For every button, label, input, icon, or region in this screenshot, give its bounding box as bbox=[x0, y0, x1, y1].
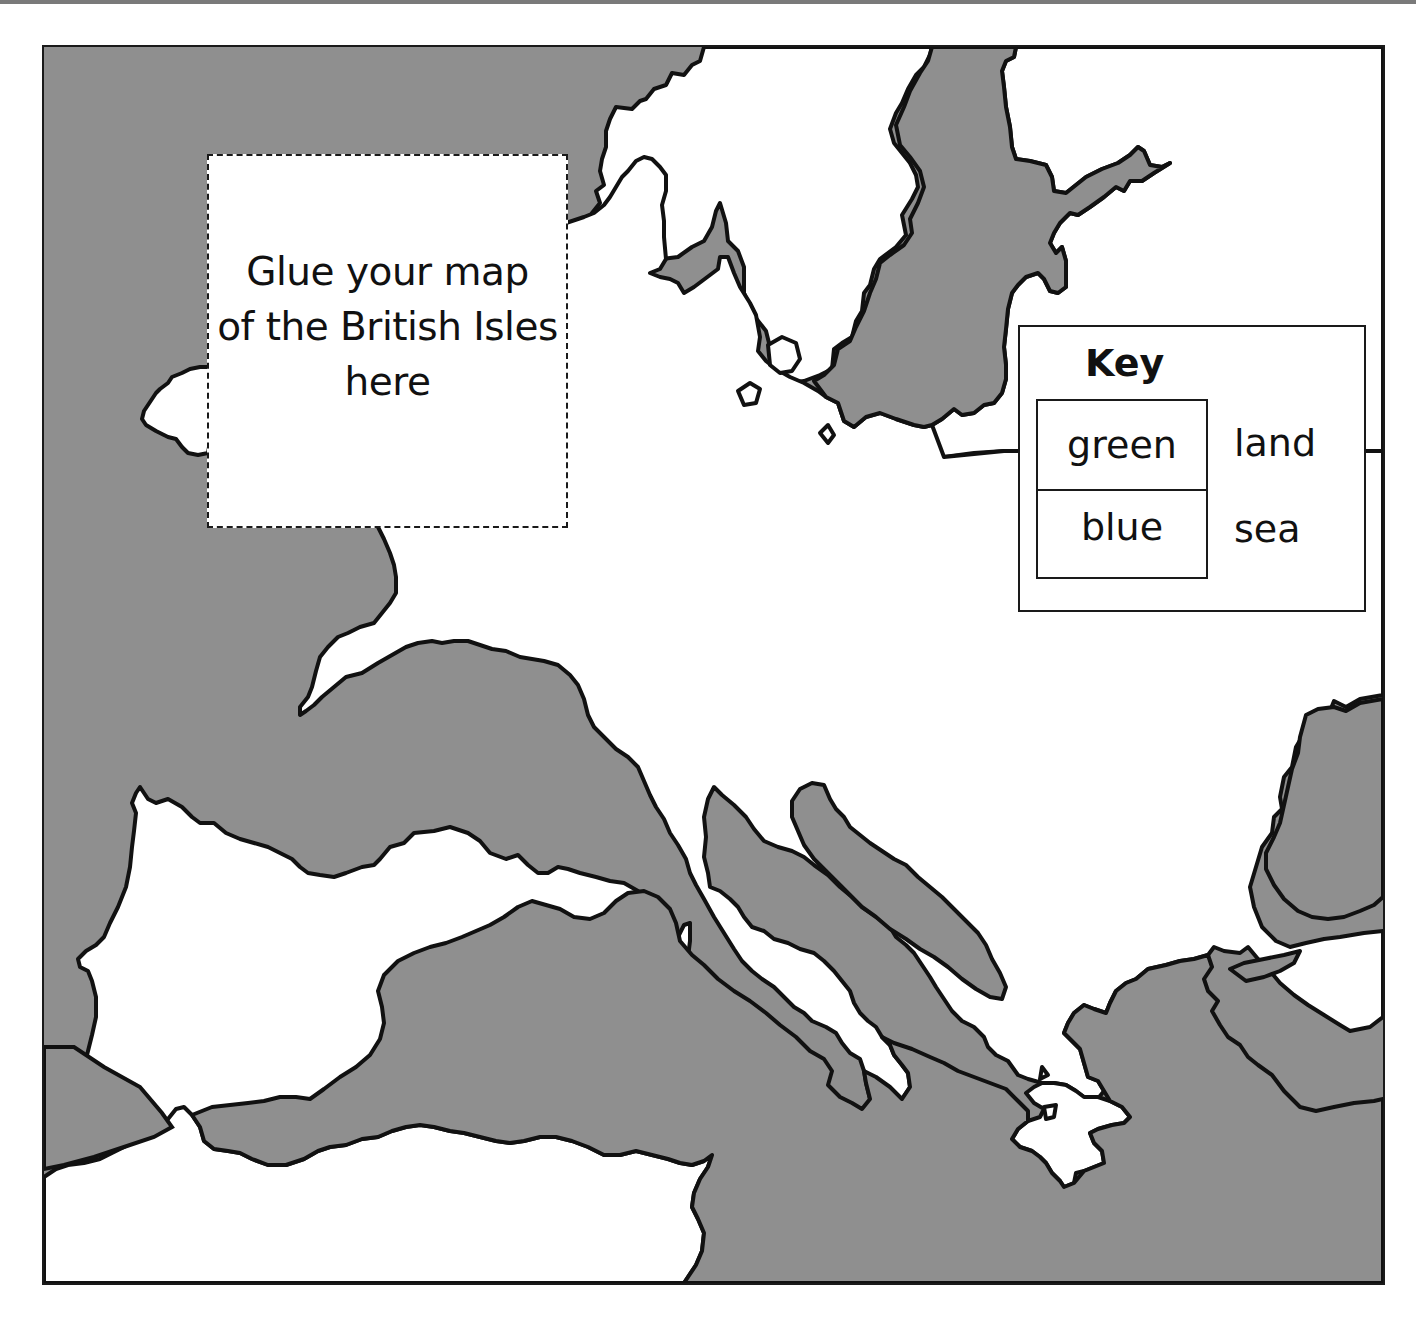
key-title: Key bbox=[1085, 341, 1164, 385]
map-frame: Glue your map of the British Isles here … bbox=[42, 45, 1385, 1285]
glue-instruction-line-3: here bbox=[217, 354, 558, 409]
map-key-legend: Key green blue land sea bbox=[1018, 325, 1366, 612]
key-color-table: green blue bbox=[1036, 399, 1208, 579]
key-color-word-green: green bbox=[1038, 401, 1206, 491]
island-zealand bbox=[768, 337, 800, 373]
key-meaning-sea: sea bbox=[1234, 507, 1300, 551]
glue-instruction-line-1: Glue your map bbox=[217, 244, 558, 299]
key-color-word-blue: blue bbox=[1038, 491, 1206, 567]
glue-map-placeholder-box: Glue your map of the British Isles here bbox=[207, 154, 568, 528]
island-kefalonia bbox=[1044, 1105, 1056, 1119]
glue-instruction-line-2: of the British Isles bbox=[217, 299, 558, 354]
key-meaning-land: land bbox=[1234, 421, 1316, 465]
page-top-rule bbox=[0, 0, 1416, 4]
glue-instruction-text: Glue your map of the British Isles here bbox=[217, 244, 558, 409]
